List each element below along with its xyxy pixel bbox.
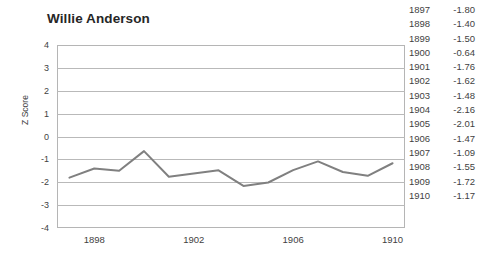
- y-axis-tick-label: -2: [27, 177, 49, 187]
- table-cell-value: -1.80: [443, 3, 475, 17]
- table-cell-value: -1.17: [443, 189, 475, 203]
- table-cell-year: 1897: [409, 3, 439, 17]
- table-cell-value: -1.48: [443, 89, 475, 103]
- table-row: 1905-2.01: [409, 117, 493, 131]
- table-cell-value: -0.64: [443, 46, 475, 60]
- table-cell-year: 1900: [409, 46, 439, 60]
- table-row: 1900-0.64: [409, 46, 493, 60]
- y-axis-tick-label: 3: [27, 63, 49, 73]
- table-cell-year: 1907: [409, 146, 439, 160]
- table-cell-year: 1898: [409, 17, 439, 31]
- table-row: 1898-1.40: [409, 17, 493, 31]
- table-row: 1903-1.48: [409, 89, 493, 103]
- table-cell-value: -1.47: [443, 132, 475, 146]
- table-cell-year: 1909: [409, 175, 439, 189]
- table-row: 1897-1.80: [409, 3, 493, 17]
- table-cell-value: -1.40: [443, 17, 475, 31]
- table-row: 1910-1.17: [409, 189, 493, 203]
- table-row: 1909-1.72: [409, 175, 493, 189]
- table-row: 1901-1.76: [409, 60, 493, 74]
- y-axis-tick-label: 2: [27, 86, 49, 96]
- table-cell-value: -1.62: [443, 74, 475, 88]
- table-row: 1904-2.16: [409, 103, 493, 117]
- table-cell-year: 1904: [409, 103, 439, 117]
- y-axis-tick-label: 1: [27, 109, 49, 119]
- table-cell-value: -1.76: [443, 60, 475, 74]
- x-axis-tick-label: 1910: [368, 234, 418, 246]
- data-table: 1897-1.801898-1.401899-1.501900-0.641901…: [409, 3, 493, 203]
- table-cell-year: 1902: [409, 74, 439, 88]
- table-cell-value: -1.55: [443, 160, 475, 174]
- table-cell-year: 1906: [409, 132, 439, 146]
- line-chart-figure: Willie Anderson Z Score 43210-1-2-3-4 18…: [0, 0, 493, 261]
- table-cell-year: 1908: [409, 160, 439, 174]
- x-axis-tick-label: 1898: [69, 234, 119, 246]
- table-row: 1902-1.62: [409, 74, 493, 88]
- table-row: 1906-1.47: [409, 132, 493, 146]
- table-row: 1899-1.50: [409, 32, 493, 46]
- table-cell-value: -1.72: [443, 175, 475, 189]
- table-cell-year: 1901: [409, 60, 439, 74]
- y-axis-tick-label: -3: [27, 200, 49, 210]
- plot-area: [57, 45, 405, 228]
- table-cell-year: 1910: [409, 189, 439, 203]
- table-cell-value: -1.50: [443, 32, 475, 46]
- chart-title: Willie Anderson: [47, 11, 150, 26]
- table-cell-value: -2.16: [443, 103, 475, 117]
- y-axis-tick-label: -1: [27, 154, 49, 164]
- y-axis-tick-label: 4: [27, 40, 49, 50]
- table-cell-value: -2.01: [443, 117, 475, 131]
- table-cell-year: 1903: [409, 89, 439, 103]
- series-line: [57, 45, 405, 228]
- y-axis-tick-label: -4: [27, 223, 49, 233]
- series-polyline: [69, 151, 392, 186]
- table-cell-value: -1.09: [443, 146, 475, 160]
- table-row: 1908-1.55: [409, 160, 493, 174]
- x-axis-tick-label: 1902: [169, 234, 219, 246]
- x-axis-tick-label: 1906: [268, 234, 318, 246]
- y-axis-tick-label: 0: [27, 132, 49, 142]
- table-cell-year: 1905: [409, 117, 439, 131]
- table-cell-year: 1899: [409, 32, 439, 46]
- table-row: 1907-1.09: [409, 146, 493, 160]
